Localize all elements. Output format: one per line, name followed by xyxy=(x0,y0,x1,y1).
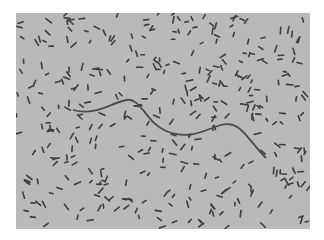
bacteria-scene xyxy=(16,13,310,229)
micrograph-field xyxy=(16,13,310,229)
